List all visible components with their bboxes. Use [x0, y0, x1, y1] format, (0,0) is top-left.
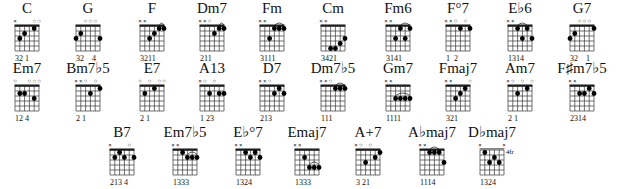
muted-string-marker: ×: [298, 142, 302, 148]
open-string-marker: ○: [127, 142, 131, 148]
open-string-marker: ○: [268, 78, 272, 84]
finger-dot: [282, 91, 287, 96]
fingering-label: 1333: [173, 178, 189, 187]
open-string-marker: ○: [369, 142, 373, 148]
fingering-label: 1324: [236, 178, 252, 187]
fingering-label: 1333: [295, 178, 311, 187]
muted-string-marker: ×: [263, 78, 267, 84]
open-string-marker: ○: [583, 18, 587, 24]
nut: [386, 25, 411, 27]
nut: [420, 149, 445, 151]
open-string-marker: ○: [359, 142, 363, 148]
chord-diagram: Dm7♭5××○111: [303, 60, 363, 122]
finger-dot: [568, 36, 573, 41]
nut: [508, 85, 533, 87]
chord-diagram: Dm7××○211: [182, 0, 242, 62]
finger-dot: [587, 86, 592, 91]
open-string-marker: ○: [13, 78, 17, 84]
muted-string-marker: ×: [511, 18, 515, 24]
muted-string-marker: ×: [319, 78, 323, 84]
open-string-marker: ○: [138, 78, 142, 84]
finger-dot: [142, 91, 147, 96]
fretboard-grid: ××○○: [58, 60, 118, 122]
finger-dot: [492, 155, 497, 160]
nut: [321, 25, 346, 27]
chord-diagram: Fm××3111: [242, 0, 302, 62]
chord-diagram: B7×○213 4: [92, 124, 152, 186]
muted-string-marker: ×: [79, 78, 83, 84]
open-string-marker: ○: [84, 78, 88, 84]
open-string-marker: ○: [157, 78, 161, 84]
finger-dot: [272, 26, 277, 31]
muted-string-marker: ×: [389, 18, 393, 24]
chord-diagram: A♭maj7××1114: [402, 124, 462, 186]
chord-diagram: F♯m7♭5××2314: [552, 60, 612, 122]
finger-dot: [398, 26, 403, 31]
muted-string-marker: ×: [573, 78, 577, 84]
open-string-marker: ○: [93, 78, 97, 84]
chord-diagram: D7××○213: [242, 60, 302, 122]
fretboard-grid: ○○○○: [0, 60, 57, 122]
muted-string-marker: ×: [418, 142, 422, 148]
fingering-label: 1 23: [200, 114, 214, 123]
nut: [110, 149, 135, 151]
finger-dot: [277, 26, 282, 31]
finger-dot: [592, 26, 597, 31]
chord-diagram: A+7×○○3 21: [338, 124, 398, 186]
nut: [321, 85, 346, 87]
chord-diagram: Gm7××1111: [368, 60, 428, 122]
fingering-label: 12 4: [15, 114, 29, 123]
muted-string-marker: ×: [198, 18, 202, 24]
finger-dot: [582, 91, 587, 96]
finger-dot: [408, 26, 413, 31]
finger-dot: [307, 165, 312, 170]
finger-dot: [458, 91, 463, 96]
muted-string-marker: ×: [293, 142, 297, 148]
fingering-label: 2 1: [76, 114, 86, 123]
finger-dot: [74, 36, 79, 41]
finger-dot: [195, 155, 200, 160]
muted-string-marker: ×: [444, 78, 448, 84]
finger-dot: [525, 26, 530, 31]
chord-diagram: G○○○32 4: [58, 0, 118, 62]
fretboard-grid: ××: [552, 60, 612, 122]
fingering-label: 2 1: [140, 114, 150, 123]
fingering-label: 111: [321, 114, 332, 123]
finger-dot: [453, 96, 458, 101]
chord-diagram: G7○○○32 1: [552, 0, 612, 62]
open-string-marker: ○: [468, 78, 472, 84]
chord-diagram: D♭maj7××4fr1324: [462, 124, 522, 186]
finger-dot: [432, 150, 437, 155]
nut: [15, 85, 40, 87]
muted-string-marker: ×: [319, 18, 323, 24]
finger-dot: [122, 155, 127, 160]
fretboard-grid: ××4fr: [462, 124, 522, 186]
nut: [236, 149, 261, 151]
fretboard-grid: ××: [368, 60, 428, 122]
muted-string-marker: ×: [568, 78, 572, 84]
fretboard-grid: ×○○○: [490, 60, 550, 122]
chord-diagram: E7○○○○2 1: [122, 60, 182, 122]
finger-dot: [373, 155, 378, 160]
muted-string-marker: ×: [171, 142, 175, 148]
open-string-marker: ○: [578, 18, 582, 24]
finger-dot: [32, 96, 37, 101]
finger-dot: [525, 86, 530, 91]
finger-dot: [243, 150, 248, 155]
chord-diagram: E♭°7××1324: [218, 124, 278, 186]
muted-string-marker: ×: [143, 18, 147, 24]
nut: [200, 25, 225, 27]
finger-dot: [463, 86, 468, 91]
fingering-label: 3 21: [356, 178, 370, 187]
open-string-marker: ○: [28, 78, 32, 84]
fingering-label: 1324: [480, 178, 496, 187]
finger-dot: [468, 26, 473, 31]
finger-dot: [398, 96, 403, 101]
nut: [173, 149, 198, 151]
open-string-marker: ○: [162, 78, 166, 84]
finger-dot: [333, 46, 338, 51]
finger-dot: [32, 26, 37, 31]
finger-dot: [22, 91, 27, 96]
finger-dot: [222, 91, 227, 96]
muted-string-marker: ×: [198, 78, 202, 84]
